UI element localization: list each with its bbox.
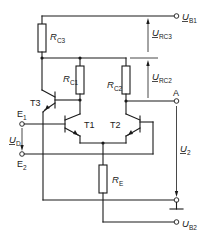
supply-rail-ub2: UB2 — [103, 218, 197, 231]
terminal-ub1 — [174, 14, 179, 19]
supply-rail-ub1: UB1 — [42, 11, 197, 24]
circuit-diagram: UB1 RC3 RC1 RC2 A — [0, 0, 209, 240]
label-ub2: UB2 — [182, 218, 197, 231]
ground-rail — [43, 198, 183, 209]
terminal-e1 — [20, 122, 25, 127]
label-a: A — [173, 88, 179, 98]
resistor-rc2: RC2 — [107, 66, 130, 114]
label-rc2: RC2 — [107, 79, 123, 92]
input-e1: E1 — [17, 109, 65, 126]
resistor-re: RE — [99, 165, 124, 222]
terminal-ground — [174, 198, 179, 203]
voltage-arrow-urc3: URC3 — [130, 18, 172, 58]
input-e2: E2 — [17, 152, 153, 171]
transistor-t2: T2 — [110, 114, 153, 154]
terminal-ub2 — [174, 220, 179, 225]
output-a: A — [124, 88, 179, 103]
label-re: RE — [112, 174, 124, 187]
label-e2: E2 — [17, 159, 27, 171]
label-t1: T1 — [84, 120, 95, 130]
transistor-t1: T1 — [65, 114, 95, 143]
voltage-arrow-urc2: URC2 — [146, 60, 172, 98]
terminal-e2 — [20, 152, 25, 157]
label-rc3: RC3 — [50, 31, 66, 44]
resistor-rc3: RC3 — [38, 24, 66, 58]
voltage-arrow-ud: UD — [9, 128, 24, 151]
resistor-rc1: RC1 — [63, 66, 84, 114]
label-e1: E1 — [17, 109, 27, 121]
terminal-a — [174, 99, 179, 104]
label-t2: T2 — [110, 120, 121, 130]
transistor-t3: T3 — [30, 90, 82, 200]
voltage-arrow-u2: U2 — [175, 106, 191, 197]
emitter-node — [80, 141, 126, 165]
label-t3: T3 — [30, 98, 41, 108]
